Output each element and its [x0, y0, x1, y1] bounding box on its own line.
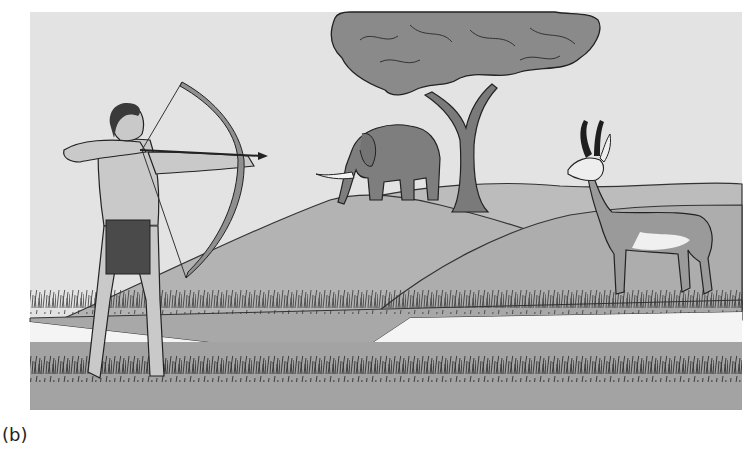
archer-loincloth	[106, 220, 150, 274]
foreground-grass	[30, 356, 742, 382]
illustration	[0, 0, 746, 420]
figure-caption: (b)	[2, 424, 27, 445]
midground-grass	[30, 290, 742, 314]
